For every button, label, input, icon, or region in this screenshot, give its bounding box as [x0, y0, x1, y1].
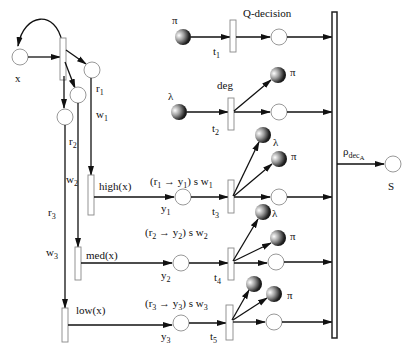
- place-q-decision: [271, 29, 287, 45]
- label-w1: w1: [96, 108, 108, 123]
- place-r2: [70, 87, 86, 103]
- transition-t4: [228, 248, 234, 280]
- token-lambda-2: [255, 127, 271, 143]
- label-deg: deg: [217, 79, 233, 91]
- label-r2: r2: [69, 135, 77, 150]
- label-t2: t2: [212, 122, 219, 137]
- label-med: med(x): [86, 249, 118, 262]
- petri-net-diagram: x r1 w1 r2 w2 r3 w3 high(x) med(x) low(x…: [0, 0, 413, 357]
- place-t4-out: [268, 254, 284, 270]
- token-lambda-label: λ: [273, 136, 279, 148]
- place-S: [385, 156, 401, 172]
- token-pi-label: π: [172, 14, 178, 26]
- token-pi-label: π: [290, 66, 296, 78]
- place-x: [12, 49, 28, 65]
- transition-t2: [228, 98, 234, 130]
- label-t5: t5: [210, 330, 217, 345]
- edge-t4-pi: [234, 243, 271, 261]
- token-pi-2: [270, 67, 286, 83]
- transition-t5: [226, 305, 233, 340]
- label-S: S: [388, 180, 394, 192]
- token-lambda-1: [171, 104, 187, 120]
- label-low: low(x): [76, 304, 106, 317]
- label-high: high(x): [99, 180, 132, 193]
- token-lambda-4: [246, 276, 262, 292]
- label-rho: ρdecA: [343, 145, 365, 162]
- loop-arc: [18, 19, 62, 46]
- place-r3: [57, 109, 73, 125]
- token-pi-4: [270, 230, 286, 246]
- token-pi-label: π: [287, 289, 293, 301]
- transition-rho-dec: [332, 12, 337, 338]
- transition-med: [75, 247, 81, 280]
- place-y1: [175, 189, 191, 205]
- place-t3-out: [271, 189, 287, 205]
- place-r1: [84, 62, 100, 78]
- label-t1: t1: [213, 45, 220, 60]
- label-rule2: (r2 → y2) s w2: [145, 226, 208, 241]
- place-y2: [173, 255, 189, 271]
- token-pi-label: π: [291, 150, 297, 162]
- transition-t1: [230, 20, 236, 52]
- edge-t2-pi: [234, 80, 271, 111]
- label-x: x: [15, 72, 21, 84]
- label-t3: t3: [212, 205, 219, 220]
- label-t4: t4: [214, 271, 221, 286]
- token-pi-3: [271, 151, 287, 167]
- edge-t3-lambda: [233, 142, 259, 196]
- token-pi-5: [266, 286, 282, 302]
- split-transition: [60, 38, 66, 80]
- place-deg: [271, 104, 287, 120]
- label-r1: r1: [96, 82, 104, 97]
- edge-split-r1: [66, 50, 86, 64]
- label-rule3: (r3 → y3) s w3: [145, 297, 208, 312]
- token-lambda-label: λ: [168, 90, 174, 102]
- label-y1: y1: [161, 202, 171, 217]
- token-pi-label: π: [290, 230, 296, 242]
- edge-split-r2: [65, 62, 75, 88]
- label-rule1: (r1 → y1) s w1: [150, 175, 213, 190]
- edge-t3-pi: [234, 164, 272, 196]
- label-q-decision: Q-decision: [243, 7, 292, 19]
- transition-low: [62, 308, 68, 342]
- place-t5-out: [266, 314, 282, 330]
- place-y3: [173, 315, 189, 331]
- token-pi-1: [175, 29, 191, 45]
- transition-high: [88, 175, 94, 215]
- label-w2: w2: [66, 173, 78, 188]
- label-w3: w3: [46, 246, 58, 261]
- token-lambda-3: [255, 204, 271, 220]
- label-r3: r3: [48, 206, 56, 221]
- label-y3: y3: [161, 330, 171, 345]
- label-y2: y2: [161, 269, 171, 284]
- token-lambda-label: λ: [272, 207, 278, 219]
- transition-t3: [228, 180, 234, 213]
